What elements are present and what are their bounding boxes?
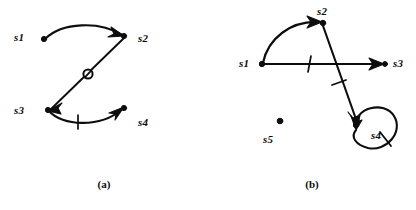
node-label-s4: s4	[371, 130, 381, 141]
node-dot-s5	[277, 118, 283, 124]
node-dot-s4	[121, 105, 126, 110]
panel-b: s1 s2 s3 s4 s5 (b)	[208, 0, 416, 210]
panel-b-graph	[208, 0, 416, 175]
edge-s2-s4	[322, 23, 357, 122]
figure-container: s1 s2 s3 s4 (a)	[0, 0, 416, 210]
panel-a: s1 s2 s3 s4 (a)	[0, 0, 208, 210]
edge-s1-s2	[263, 22, 318, 63]
node-label-s1: s1	[239, 58, 249, 69]
node-label-s2: s2	[317, 6, 327, 17]
node-label-s1: s1	[14, 32, 24, 43]
node-label-s2: s2	[138, 33, 148, 44]
node-dot-s3	[383, 62, 388, 67]
panel-a-graph	[0, 0, 208, 175]
node-label-s5: s5	[263, 134, 273, 145]
node-label-s4: s4	[138, 117, 148, 128]
node-dot-s3	[45, 107, 50, 112]
edge-s4-self-loop	[354, 107, 397, 148]
panel-b-caption: (b)	[208, 178, 416, 190]
node-dot-s1	[259, 61, 264, 66]
node-label-s3: s3	[14, 105, 24, 116]
panel-a-caption: (a)	[0, 178, 208, 190]
node-dot-s2	[320, 20, 325, 25]
node-dot-s4	[353, 122, 358, 127]
node-dot-s1	[41, 36, 46, 41]
node-dot-s2	[121, 33, 126, 38]
node-label-s3: s3	[393, 58, 403, 69]
